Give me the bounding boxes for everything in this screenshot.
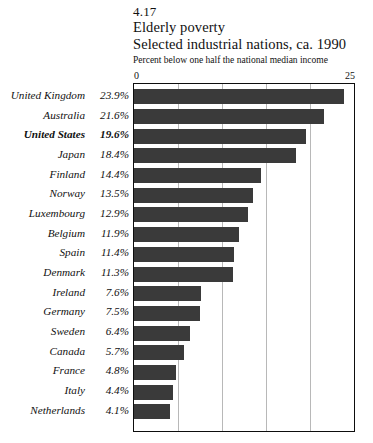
category-value: 6.4% xyxy=(91,325,129,337)
category-value: 12.9% xyxy=(91,207,129,219)
plot-area xyxy=(133,83,355,432)
bar-row xyxy=(134,382,354,402)
bar xyxy=(134,404,170,419)
category-value: 21.6% xyxy=(91,109,129,121)
category-name: Finland xyxy=(50,168,85,180)
bar-row xyxy=(134,363,354,383)
figure-header: 4.17 Elderly poverty Selected industrial… xyxy=(133,4,373,67)
bar xyxy=(134,247,234,262)
category-value: 11.4% xyxy=(91,246,129,258)
bar-row xyxy=(134,225,354,245)
category-name: Netherlands xyxy=(30,404,85,416)
category-name: United Kingdom xyxy=(11,89,85,101)
x-axis-tick-max: 25 xyxy=(345,70,355,82)
category-name: Luxembourg xyxy=(29,207,85,219)
category-label-row: Spain11.4% xyxy=(0,243,129,263)
category-name: Belgium xyxy=(48,227,85,239)
bar xyxy=(134,326,190,341)
category-label-row: Canada5.7% xyxy=(0,341,129,361)
category-value: 11.9% xyxy=(91,227,129,239)
x-axis-tick-labels: 0 25 xyxy=(133,70,355,83)
category-name: Japan xyxy=(58,148,85,160)
category-name: Canada xyxy=(50,345,85,357)
bar xyxy=(134,286,201,301)
bar xyxy=(134,365,176,380)
category-label-row: Sweden6.4% xyxy=(0,321,129,341)
bar-row xyxy=(134,245,354,265)
category-value: 4.1% xyxy=(91,404,129,416)
category-name: United States xyxy=(24,128,85,140)
category-value: 11.3% xyxy=(91,266,129,278)
category-name: Sweden xyxy=(51,325,85,337)
category-label-row: Italy4.4% xyxy=(0,380,129,400)
figure-axis-note: Percent below one half the national medi… xyxy=(133,54,373,67)
category-label-row: United States19.6% xyxy=(0,124,129,144)
category-name: France xyxy=(53,364,85,376)
category-label-row: Ireland7.6% xyxy=(0,282,129,302)
bar xyxy=(134,89,344,104)
category-label-row: Denmark11.3% xyxy=(0,262,129,282)
bar-row xyxy=(134,107,354,127)
category-value: 13.5% xyxy=(91,187,129,199)
bar xyxy=(134,306,200,321)
bar xyxy=(134,168,261,183)
bar xyxy=(134,207,248,222)
bar-row xyxy=(134,343,354,363)
category-label-row: United Kingdom23.9% xyxy=(0,85,129,105)
category-name: Denmark xyxy=(43,266,85,278)
category-label-row: Norway13.5% xyxy=(0,183,129,203)
bar-row xyxy=(134,284,354,304)
category-value: 19.6% xyxy=(91,128,129,140)
bar-row xyxy=(134,87,354,107)
x-axis-tick-min: 0 xyxy=(134,70,139,82)
bar xyxy=(134,109,324,124)
category-value: 7.5% xyxy=(91,305,129,317)
category-name: Norway xyxy=(50,187,85,199)
bar xyxy=(134,385,173,400)
category-name: Italy xyxy=(64,384,85,396)
bar xyxy=(134,345,184,360)
bar-row xyxy=(134,323,354,343)
bar-group xyxy=(134,84,354,422)
category-value: 23.9% xyxy=(91,89,129,101)
bar-row xyxy=(134,126,354,146)
bar xyxy=(134,129,306,144)
bar-row xyxy=(134,304,354,324)
bar xyxy=(134,267,233,282)
category-value: 4.4% xyxy=(91,384,129,396)
category-name: Australia xyxy=(43,109,85,121)
category-label-row: Luxembourg12.9% xyxy=(0,203,129,223)
figure-subtitle: Selected industrial nations, ca. 1990 xyxy=(133,36,373,53)
category-value: 4.8% xyxy=(91,364,129,376)
figure-number: 4.17 xyxy=(133,4,373,19)
category-label-row: Japan18.4% xyxy=(0,144,129,164)
category-value: 5.7% xyxy=(91,345,129,357)
category-name: Spain xyxy=(60,246,85,258)
bar xyxy=(134,227,239,242)
category-value: 14.4% xyxy=(91,168,129,180)
bar-row xyxy=(134,166,354,186)
category-value: 7.6% xyxy=(91,286,129,298)
bar-row xyxy=(134,146,354,166)
category-label-row: Germany7.5% xyxy=(0,302,129,322)
category-name: Germany xyxy=(43,305,85,317)
figure-container: 4.17 Elderly poverty Selected industrial… xyxy=(0,0,373,443)
bar-row xyxy=(134,264,354,284)
category-value: 18.4% xyxy=(91,148,129,160)
bar-row xyxy=(134,205,354,225)
bar xyxy=(134,148,296,163)
category-label-row: Netherlands4.1% xyxy=(0,400,129,420)
category-label-column: United Kingdom23.9%Australia21.6%United … xyxy=(0,85,129,420)
category-label-row: Belgium11.9% xyxy=(0,223,129,243)
category-name: Ireland xyxy=(52,286,85,298)
bar-row xyxy=(134,402,354,422)
figure-title: Elderly poverty xyxy=(133,19,373,36)
bar-row xyxy=(134,185,354,205)
category-label-row: Australia21.6% xyxy=(0,105,129,125)
category-label-row: France4.8% xyxy=(0,361,129,381)
bar xyxy=(134,188,253,203)
category-label-row: Finland14.4% xyxy=(0,164,129,184)
